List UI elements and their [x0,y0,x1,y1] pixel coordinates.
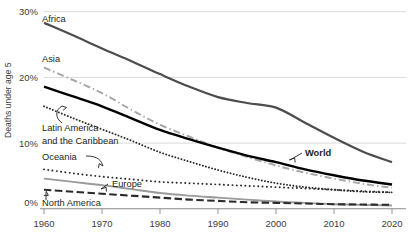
series-label-asia: Asia [42,54,61,64]
y-tick-label-20: 20% [19,72,39,83]
arrowhead-world [289,158,295,163]
series-label-oceania: Oceania [42,152,77,162]
y-tick-label-10: 10% [19,138,39,149]
arrowhead-latin-america [62,106,67,111]
x-tick-label-1980: 1980 [149,218,170,229]
series-label-world: World [305,148,331,158]
series-labels: Africa Asia Latin America and the Caribb… [42,14,331,208]
x-tick-label-2010: 2010 [323,218,344,229]
x-tick-label-1960: 1960 [33,218,54,229]
series-label-latin-america-line2: and the Caribbean [42,136,119,146]
y-axis-title: Deaths under age 5 [3,62,13,138]
x-axis: 1960 1970 1980 1990 2000 2010 2020 [33,209,406,229]
leader-latin-america [57,106,62,123]
y-tick-label-30: 30% [19,6,39,17]
deaths-under-age-5-line-chart: 1960 1970 1980 1990 2000 2010 2020 30% 2… [0,0,414,233]
x-axis-tick-labels: 1960 1970 1980 1990 2000 2010 2020 [33,218,402,229]
series-label-europe: Europe [112,179,142,189]
chart-container: 1960 1970 1980 1990 2000 2010 2020 30% 2… [0,0,414,233]
series-label-latin-america-line1: Latin America [42,123,99,133]
y-axis-tick-labels: 30% 20% 10% 0% [19,6,39,208]
x-tick-label-1990: 1990 [207,218,228,229]
x-tick-label-1970: 1970 [91,218,112,229]
series-label-africa: Africa [42,14,67,24]
series-line-oceania [44,169,392,192]
x-axis-ticks [44,209,392,214]
y-tick-label-0: 0% [24,197,38,208]
x-tick-label-2020: 2020 [381,218,402,229]
x-tick-label-2000: 2000 [265,218,286,229]
series-label-north-america: North America [42,198,102,208]
series-lines [44,23,392,206]
